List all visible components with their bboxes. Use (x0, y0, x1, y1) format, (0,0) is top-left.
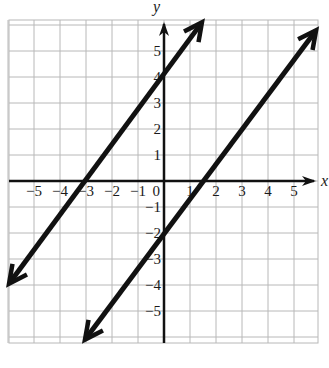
y-axis-label: y (151, 0, 161, 16)
x-tick-label: −5 (26, 183, 42, 199)
y-tick-label: 5 (154, 43, 162, 59)
y-tick-label: −1 (145, 199, 161, 215)
coordinate-plane: −5−4−3−2−1012345−5−4−3−2−112345 x y (0, 0, 329, 368)
x-tick-label: 2 (212, 183, 220, 199)
x-tick-label: −2 (104, 183, 120, 199)
line-2 (87, 33, 313, 336)
y-tick-label: −5 (145, 303, 161, 319)
line-1 (11, 26, 199, 281)
y-tick-label: −4 (145, 277, 161, 293)
x-tick-label: −1 (130, 183, 146, 199)
x-tick-label: 3 (238, 183, 246, 199)
x-tick-label: −4 (52, 183, 68, 199)
x-tick-label: 0 (153, 183, 161, 199)
y-tick-label: 3 (154, 95, 162, 111)
x-tick-label: 4 (264, 183, 272, 199)
x-tick-label: 5 (290, 183, 298, 199)
y-tick-label: 1 (154, 147, 162, 163)
x-axis-label: x (320, 172, 328, 189)
y-tick-label: 2 (154, 121, 162, 137)
